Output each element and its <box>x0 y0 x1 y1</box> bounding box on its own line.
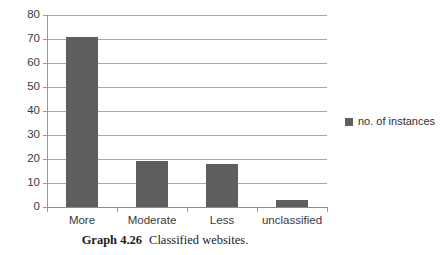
caption-label: Graph 4.26 <box>82 233 142 247</box>
bar-unclassified[interactable] <box>276 200 308 207</box>
ytick-label-40: 40 <box>27 105 40 117</box>
ytick-label-30: 30 <box>27 129 40 141</box>
bars-layer <box>47 15 327 207</box>
xtick-mark-3 <box>257 207 258 212</box>
figure-caption: Graph 4.26Classified websites. <box>0 233 330 248</box>
xtick-label-less: Less <box>210 215 234 227</box>
xtick-mark-0 <box>47 207 48 212</box>
ytick-label-50: 50 <box>27 81 40 93</box>
bar-more[interactable] <box>66 37 98 207</box>
caption-text: Classified websites. <box>149 233 248 247</box>
legend: no. of instances <box>345 116 435 127</box>
xtick-mark-1 <box>117 207 118 212</box>
bar-moderate[interactable] <box>136 161 168 207</box>
xtick-mark-2 <box>187 207 188 212</box>
ytick-label-0: 0 <box>34 201 40 213</box>
xtick-mark-4 <box>327 207 328 212</box>
xtick-label-unclassified: unclassified <box>262 215 322 227</box>
bar-less[interactable] <box>206 164 238 207</box>
ytick-label-60: 60 <box>27 57 40 69</box>
square-swatch-icon <box>345 118 353 126</box>
figure-container: 80 70 60 50 40 30 20 10 0 More Moderate … <box>0 0 440 255</box>
ytick-label-10: 10 <box>27 177 40 189</box>
xtick-label-moderate: Moderate <box>128 215 177 227</box>
ytick-label-20: 20 <box>27 153 40 165</box>
ytick-label-70: 70 <box>27 33 40 45</box>
ytick-label-80: 80 <box>27 9 40 21</box>
xtick-label-more: More <box>69 215 95 227</box>
legend-label-no-of-instances: no. of instances <box>358 116 435 127</box>
